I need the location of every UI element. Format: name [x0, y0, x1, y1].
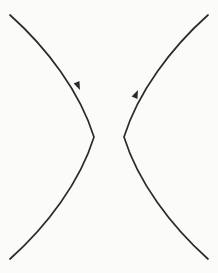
- hyperbola-figure-canvas: Hyperbola with two opposing branches: [0, 0, 218, 273]
- right-branch-direction-arrow-icon: [132, 89, 141, 99]
- right-branch-curve: [124, 15, 208, 259]
- left-branch-direction-arrow-icon: [74, 81, 83, 91]
- hyperbola-vector-drawing: [0, 0, 218, 273]
- left-branch-curve: [10, 15, 94, 259]
